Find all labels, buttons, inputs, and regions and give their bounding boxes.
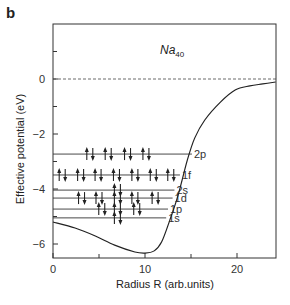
y-axis-title: Effective potential (eV) — [14, 89, 26, 209]
spin-down-arrowhead-icon — [91, 156, 95, 161]
spin-down-arrowhead-icon — [99, 177, 103, 182]
spin-down-arrowhead-icon — [63, 177, 67, 182]
spin-down-arrowhead-icon — [147, 156, 151, 161]
spin-down-arrowhead-icon — [138, 211, 142, 216]
spin-down-arrowhead-icon — [129, 156, 133, 161]
spin-up-arrowhead-icon — [97, 202, 101, 207]
y-tick-label: −2 — [32, 128, 45, 140]
spin-up-arrowhead-icon — [130, 191, 134, 196]
spin-down-arrowhead-icon — [117, 177, 121, 182]
level-label-2p: 2p — [194, 148, 206, 160]
spin-down-arrowhead-icon — [100, 200, 104, 205]
spin-up-arrowhead-icon — [112, 211, 116, 216]
y-tick-label: −4 — [32, 183, 45, 195]
y-tick-label: 0 — [39, 73, 45, 85]
potential-chart: 0−2−4−6010202p1f2s1d1p1s — [0, 0, 290, 305]
y-tick-label: −6 — [32, 238, 45, 250]
spin-up-arrowhead-icon — [85, 147, 89, 152]
spin-up-arrowhead-icon — [57, 168, 61, 173]
cluster-label: Na40 — [160, 43, 184, 59]
spin-up-arrowhead-icon — [112, 202, 116, 207]
spin-up-arrowhead-icon — [93, 168, 97, 173]
spin-down-arrowhead-icon — [82, 177, 86, 182]
spin-up-arrowhead-icon — [150, 191, 154, 196]
x-tick-label: 20 — [231, 263, 243, 275]
spin-up-arrowhead-icon — [111, 168, 115, 173]
spin-down-arrowhead-icon — [109, 156, 113, 161]
x-tick-label: 10 — [139, 263, 151, 275]
spin-up-arrowhead-icon — [148, 168, 152, 173]
cluster-base: Na — [160, 43, 175, 57]
cluster-subscript: 40 — [175, 50, 184, 59]
spin-down-arrowhead-icon — [118, 220, 122, 225]
spin-down-arrowhead-icon — [154, 177, 158, 182]
spin-up-arrowhead-icon — [76, 168, 80, 173]
spin-up-arrowhead-icon — [130, 168, 134, 173]
spin-down-arrowhead-icon — [156, 200, 160, 205]
spin-down-arrowhead-icon — [172, 177, 176, 182]
spin-up-arrowhead-icon — [123, 147, 127, 152]
x-tick-label: 0 — [50, 263, 56, 275]
potential-curve — [53, 82, 276, 253]
spin-up-arrowhead-icon — [112, 183, 116, 188]
spin-up-arrowhead-icon — [141, 147, 145, 152]
spin-up-arrowhead-icon — [94, 191, 98, 196]
spin-down-arrowhead-icon — [136, 177, 140, 182]
spin-down-arrowhead-icon — [83, 200, 87, 205]
spin-down-arrowhead-icon — [103, 211, 107, 216]
spin-up-arrowhead-icon — [112, 191, 116, 196]
spin-up-arrowhead-icon — [77, 191, 81, 196]
spin-up-arrowhead-icon — [103, 147, 107, 152]
level-label-1s: 1s — [168, 212, 180, 224]
spin-up-arrowhead-icon — [166, 168, 170, 173]
x-axis-title: Radius R (arb.units) — [53, 278, 277, 290]
